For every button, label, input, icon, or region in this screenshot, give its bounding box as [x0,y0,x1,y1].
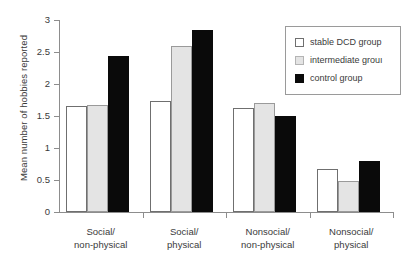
bar [192,30,213,212]
y-axis-tick: 2.5 [54,52,60,53]
legend-item: stable DCD group [286,33,400,51]
legend-label: stable DCD group [310,36,382,48]
x-axis-category-label: Nonsocial/non-physical [226,226,310,251]
y-axis-tick: 0 [54,212,60,213]
bar [66,106,87,212]
y-axis-tick-label: 2.5 [37,45,50,59]
category-label-line: Social/ [143,226,227,239]
bar [338,181,359,212]
legend-label: control group [310,72,363,84]
bar [108,56,129,212]
y-axis-tick-label: 1.5 [37,109,50,123]
x-axis-category-label: Nonsocial/physical [310,226,394,251]
x-axis-tick [226,212,227,218]
bar [233,108,254,212]
y-axis-tick-label: 0 [45,205,50,219]
bar [275,116,296,212]
legend: stable DCD groupintermediate grouıcontro… [285,26,401,95]
y-axis-tick: 2 [54,84,60,85]
legend-item: control group [286,69,400,87]
legend-swatch-black [295,74,304,83]
bar [171,46,192,212]
x-axis-tick [143,212,144,218]
y-axis-tick: 3 [54,20,60,21]
legend-item: intermediate grouı [286,51,400,69]
x-axis-tick [310,212,311,218]
category-label-line: non-physical [226,239,310,252]
y-axis-title: Mean number of hobbies reported [16,8,32,208]
category-label-line: Nonsocial/ [310,226,394,239]
bar [317,169,338,212]
category-label-line: Social/ [59,226,143,239]
y-axis-tick: 1 [54,148,60,149]
y-axis-tick-label: 0.5 [37,173,50,187]
category-label-line: non-physical [59,239,143,252]
category-label-line: physical [143,239,227,252]
y-axis-tick: 1.5 [54,116,60,117]
bar [254,103,275,212]
x-axis-category-label: Social/physical [143,226,227,251]
x-axis-tick [393,212,394,218]
y-axis-tick-label: 2 [45,77,50,91]
category-label-line: physical [310,239,394,252]
bar [87,105,108,212]
legend-label: intermediate grouı [310,54,383,66]
y-axis-tick-label: 3 [45,13,50,27]
category-label-line: Nonsocial/ [226,226,310,239]
y-axis-tick-label: 1 [45,141,50,155]
x-axis-category-label: Social/non-physical [59,226,143,251]
bar [359,161,380,212]
y-axis-tick: 0.5 [54,180,60,181]
legend-swatch-gray [295,56,304,65]
bar [150,101,171,212]
legend-swatch-white [295,38,304,47]
